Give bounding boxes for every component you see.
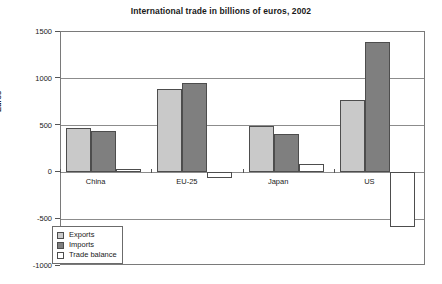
bar-japan-exports [249, 126, 274, 173]
legend-label: Trade balance [69, 250, 117, 260]
gridline [61, 219, 424, 220]
category-label-eu-25: EU-25 [176, 177, 197, 186]
category-label-japan: Japan [268, 177, 288, 186]
category-label-china: China [86, 177, 106, 186]
legend-swatch-icon [57, 252, 64, 259]
y-tick-label: 1000 [35, 73, 52, 82]
legend-item-imports[interactable]: Imports [57, 240, 117, 250]
chart-container: International trade in billions of euros… [0, 0, 442, 284]
x-tick-mark [243, 169, 244, 173]
chart-legend: ExportsImportsTrade balance [52, 226, 123, 264]
bar-japan-imports [274, 134, 299, 172]
legend-label: Imports [69, 240, 94, 250]
y-tick-label: 0 [48, 167, 52, 176]
y-axis-tick-labels: 150010005000-500-1000 [0, 0, 58, 284]
bar-us-exports [340, 100, 365, 173]
bar-eu-25-exports [157, 89, 182, 172]
bar-eu-25-trade-balance [207, 172, 232, 178]
legend-item-exports[interactable]: Exports [57, 230, 117, 240]
x-tick-mark [151, 169, 152, 173]
legend-label: Exports [69, 230, 94, 240]
x-tick-mark [60, 169, 61, 173]
legend-swatch-icon [57, 242, 64, 249]
category-label-us: US [364, 177, 374, 186]
y-tick-label: -500 [37, 214, 52, 223]
bar-eu-25-imports [182, 83, 207, 172]
bar-china-imports [91, 131, 116, 172]
bar-china-trade-balance [116, 169, 141, 172]
bar-us-imports [365, 42, 390, 172]
bar-us-trade-balance [390, 172, 415, 227]
legend-swatch-icon [57, 232, 64, 239]
y-tick-label: 500 [39, 120, 52, 129]
bar-japan-trade-balance [299, 164, 324, 173]
y-tick-label: 1500 [35, 27, 52, 36]
chart-title: International trade in billions of euros… [0, 6, 442, 16]
legend-item-trade-balance[interactable]: Trade balance [57, 250, 117, 260]
bar-china-exports [66, 128, 91, 172]
x-tick-mark [334, 169, 335, 173]
y-tick-label: -1000 [33, 261, 52, 270]
